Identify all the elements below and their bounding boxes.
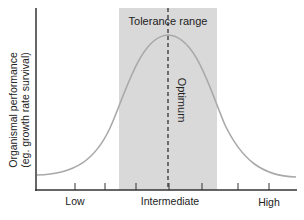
y-axis-label-line1: Organismal performance: [7, 52, 19, 168]
x-label-high: High: [258, 196, 280, 208]
x-label-low: Low: [65, 195, 85, 207]
y-axis-label-line2: (eg. growth rate survival): [19, 52, 31, 168]
tolerance-range-label: Tolerance range: [129, 15, 208, 27]
optimum-label: Optimum: [176, 78, 188, 123]
tolerance-curve-diagram: Tolerance range Optimum Organismal perfo…: [0, 0, 304, 220]
x-label-intermediate: Intermediate: [141, 195, 200, 207]
